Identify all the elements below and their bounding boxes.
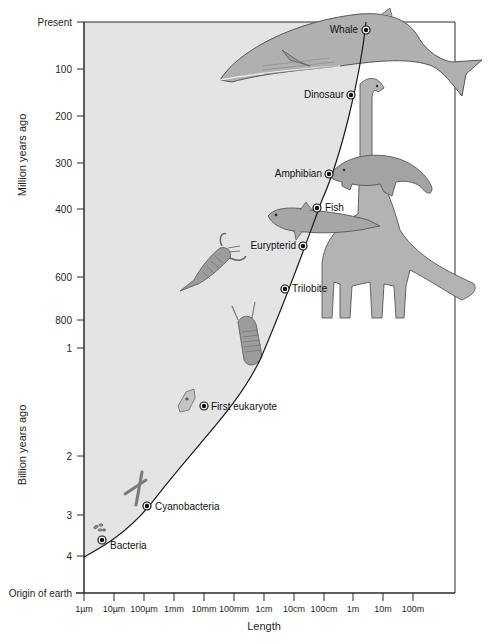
point-eurypterid	[299, 242, 307, 250]
svg-text:100: 100	[55, 64, 72, 75]
svg-text:Origin of earth: Origin of earth	[9, 588, 72, 599]
evolution-size-chart: Present 100 200 300 400 600 800 1 2 3 4 …	[0, 0, 491, 641]
y-ticks	[77, 22, 84, 556]
svg-text:200: 200	[55, 111, 72, 122]
label-cyanobacteria: Cyanobacteria	[155, 501, 220, 512]
svg-text:800: 800	[55, 315, 72, 326]
svg-text:10mm: 10mm	[191, 604, 216, 614]
svg-text:100µm: 100µm	[130, 604, 158, 614]
svg-text:1cm: 1cm	[255, 604, 272, 614]
label-bacteria: Bacteria	[110, 540, 147, 551]
svg-text:10µm: 10µm	[103, 604, 126, 614]
label-eukaryote: First eukaryote	[211, 401, 278, 412]
svg-text:2: 2	[66, 451, 72, 462]
label-amphibian: Amphibian	[275, 168, 322, 179]
point-bacteria	[98, 536, 106, 544]
point-dinosaur	[347, 91, 355, 99]
svg-text:600: 600	[55, 272, 72, 283]
svg-text:Present: Present	[38, 17, 73, 28]
x-tick-labels: 1µm 10µm 100µm 1mm 10mm 100mm 1cm 10cm 1…	[75, 604, 424, 614]
svg-text:100m: 100m	[402, 604, 425, 614]
svg-text:3: 3	[66, 510, 72, 521]
svg-text:100mm: 100mm	[219, 604, 249, 614]
point-trilobite	[281, 285, 289, 293]
point-whale	[362, 26, 370, 34]
label-fish: Fish	[325, 202, 344, 213]
svg-text:300: 300	[55, 158, 72, 169]
svg-text:100cm: 100cm	[310, 604, 337, 614]
label-trilobite: Trilobite	[292, 283, 328, 294]
y-tick-labels: Present 100 200 300 400 600 800 1 2 3 4 …	[9, 17, 73, 599]
svg-text:1mm: 1mm	[164, 604, 184, 614]
svg-text:10m: 10m	[374, 604, 392, 614]
label-whale: Whale	[330, 24, 359, 35]
svg-text:10cm: 10cm	[283, 604, 305, 614]
svg-text:1µm: 1µm	[75, 604, 93, 614]
label-dinosaur: Dinosaur	[304, 89, 345, 100]
point-cyanobacteria	[143, 502, 151, 510]
svg-text:1m: 1m	[347, 604, 360, 614]
point-amphibian	[325, 170, 333, 178]
y-axis-title-billion: Billion years ago	[16, 405, 28, 486]
y-axis-title-million: Million years ago	[16, 114, 28, 197]
label-eurypterid: Eurypterid	[250, 240, 296, 251]
svg-text:400: 400	[55, 204, 72, 215]
x-axis-title: Length	[247, 620, 281, 632]
point-eukaryote	[200, 402, 208, 410]
svg-text:1: 1	[66, 343, 72, 354]
svg-text:4: 4	[66, 551, 72, 562]
x-ticks	[84, 593, 413, 601]
point-fish	[313, 204, 321, 212]
